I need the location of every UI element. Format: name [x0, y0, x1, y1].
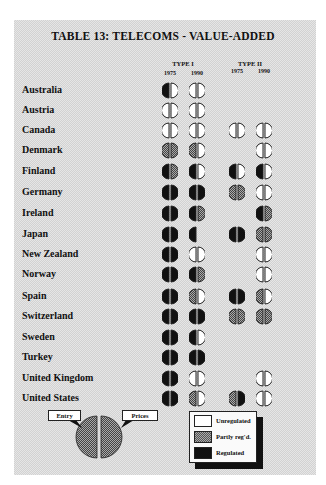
- legend-regulated: Regulated: [194, 447, 244, 458]
- entry-label: Entry: [48, 410, 81, 421]
- prices-label: Prices: [122, 410, 158, 421]
- unregulated-swatch: [194, 415, 212, 427]
- legend-partly-regulated: Partly reg'd.: [194, 431, 251, 442]
- legend: Unregulated Partly reg'd. Regulated: [189, 411, 257, 463]
- regulated-swatch: [194, 447, 212, 459]
- partly-regulated-swatch: [194, 431, 212, 443]
- legend-unregulated: Unregulated: [194, 415, 251, 426]
